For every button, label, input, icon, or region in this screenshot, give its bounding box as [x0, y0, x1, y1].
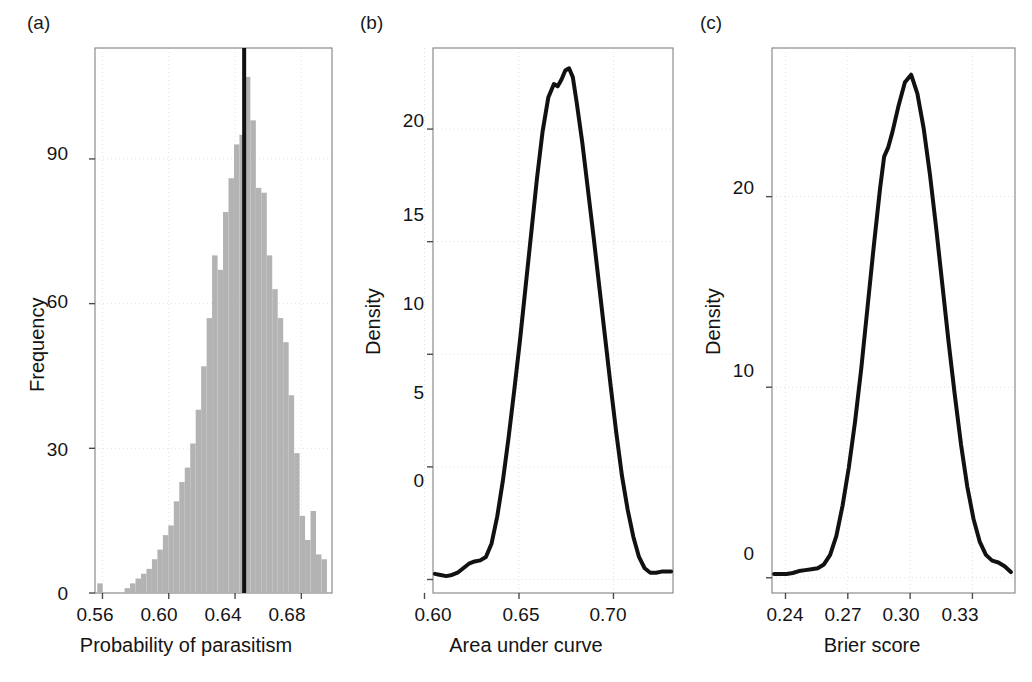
panel-a: (a) Frequency 90 60 30 0 0.56 0.60 0.64 …	[0, 0, 344, 682]
panel-b-plot	[340, 0, 688, 682]
panel-b: (b) Density 20 15 10 5 0 0.60 0.65 0.70 …	[340, 0, 688, 682]
panel-c: (c) Density 20 10 0 0.24 0.27 0.30 0.33 …	[682, 0, 1032, 682]
panel-a-plot	[0, 0, 344, 682]
figure-root: (a) Frequency 90 60 30 0 0.56 0.60 0.64 …	[0, 0, 1032, 682]
panel-c-plot	[682, 0, 1032, 682]
